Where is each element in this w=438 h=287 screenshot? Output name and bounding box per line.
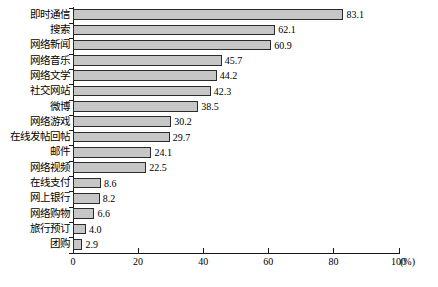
category-label: 团购 <box>0 237 70 250</box>
bar-rows-container: 即时通信83.1搜索62.1网络新闻60.9网络音乐45.7网络文学44.2社交… <box>0 0 438 254</box>
bar-row: 网络购物6.6 <box>0 207 438 222</box>
x-axis-tick-label: 80 <box>328 256 338 268</box>
bar <box>73 40 271 51</box>
bar <box>73 70 217 81</box>
bar <box>73 239 82 250</box>
bar-row: 邮件24.1 <box>0 145 438 160</box>
bar-row: 旅行预订4.0 <box>0 222 438 237</box>
bar-row: 网络视频22.5 <box>0 161 438 176</box>
bar <box>73 25 275 36</box>
category-label: 网络视频 <box>0 161 70 174</box>
bar-value-label: 62.1 <box>278 23 296 36</box>
category-label: 网络新闻 <box>0 38 70 51</box>
x-axis-tick <box>399 248 400 254</box>
bar <box>73 116 171 127</box>
bar <box>73 147 151 158</box>
x-axis-unit-label: (%) <box>400 256 415 268</box>
category-label: 在线支付 <box>0 176 70 189</box>
bar <box>73 101 198 112</box>
bar <box>73 162 146 173</box>
bar <box>73 178 101 189</box>
bar-value-label: 30.2 <box>174 115 192 128</box>
bar-value-label: 83.1 <box>346 8 364 21</box>
x-axis-tick <box>138 248 139 254</box>
bar-row: 搜索62.1 <box>0 23 438 38</box>
category-label: 邮件 <box>0 145 70 158</box>
bar-row: 社交网站42.3 <box>0 84 438 99</box>
x-axis-tick-label: 0 <box>71 256 76 268</box>
category-label: 网络游戏 <box>0 115 70 128</box>
bar <box>73 86 211 97</box>
bar-value-label: 4.0 <box>89 223 102 236</box>
x-axis-tick-label: 60 <box>263 256 273 268</box>
bar-row: 网络音乐45.7 <box>0 54 438 69</box>
bar-value-label: 22.5 <box>149 161 167 174</box>
bar <box>73 55 222 66</box>
bar-value-label: 42.3 <box>214 85 232 98</box>
bar-value-label: 6.6 <box>97 207 110 220</box>
category-label: 网络文学 <box>0 69 70 82</box>
category-label: 网络音乐 <box>0 54 70 67</box>
bar-value-label: 38.5 <box>201 100 219 113</box>
bar <box>73 193 100 204</box>
x-axis-tick <box>203 248 204 254</box>
bar-value-label: 44.2 <box>220 69 238 82</box>
bar-row: 团购2.9 <box>0 237 438 252</box>
bar-value-label: 45.7 <box>225 54 243 67</box>
bar-row: 网上银行8.2 <box>0 191 438 206</box>
category-label: 搜索 <box>0 23 70 36</box>
bar-row: 在线发帖回帖29.7 <box>0 130 438 145</box>
bar-row: 网络游戏30.2 <box>0 115 438 130</box>
category-label: 旅行预订 <box>0 222 70 235</box>
x-axis-tick-label: 40 <box>198 256 208 268</box>
category-label: 微博 <box>0 100 70 113</box>
category-label: 在线发帖回帖 <box>0 130 70 143</box>
bar-value-label: 24.1 <box>154 146 172 159</box>
x-axis-tick-label: 20 <box>133 256 143 268</box>
bar <box>73 9 343 20</box>
category-label: 即时通信 <box>0 8 70 21</box>
category-label: 网络购物 <box>0 207 70 220</box>
category-label: 社交网站 <box>0 84 70 97</box>
bar-row: 在线支付8.6 <box>0 176 438 191</box>
y-axis-tick <box>69 253 74 254</box>
horizontal-bar-chart: 即时通信83.1搜索62.1网络新闻60.9网络音乐45.7网络文学44.2社交… <box>0 0 438 287</box>
bar-value-label: 8.2 <box>103 192 116 205</box>
bar-value-label: 60.9 <box>274 39 292 52</box>
bar-row: 即时通信83.1 <box>0 8 438 23</box>
category-label: 网上银行 <box>0 191 70 204</box>
x-axis-tick <box>333 248 334 254</box>
bar-row: 网络文学44.2 <box>0 69 438 84</box>
bar <box>73 132 170 143</box>
x-axis-tick <box>268 248 269 254</box>
bar <box>73 208 94 219</box>
bar-row: 网络新闻60.9 <box>0 38 438 53</box>
bar-value-label: 8.6 <box>104 177 117 190</box>
bar-value-label: 2.9 <box>85 238 98 251</box>
bar <box>73 224 86 235</box>
bar-row: 微博38.5 <box>0 100 438 115</box>
bar-value-label: 29.7 <box>173 131 191 144</box>
